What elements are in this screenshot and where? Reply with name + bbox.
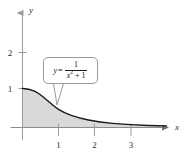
equation-callout-box: y = 1 x2 + 1 [43,57,98,84]
y-axis-label: y [28,5,33,15]
x-tick-label-1: 1 [56,140,61,150]
equation-denominator-rest: + 1 [73,71,86,80]
x-tick-label-3: 3 [129,140,134,150]
equation-equals-sign: = [58,67,63,75]
equation-fraction: 1 x2 + 1 [65,61,88,80]
y-tick-label-1: 1 [8,84,13,94]
x-tick-label-2: 2 [92,140,97,150]
callout-pointer [54,84,64,106]
function-graph-figure: 2 1 1 2 3 x y y = 1 x2 + 1 [0,0,187,156]
equation-content: y = 1 x2 + 1 [44,58,97,83]
equation-denominator: x2 + 1 [65,71,88,80]
y-tick-label-2: 2 [8,48,13,58]
x-axis-label: x [174,122,179,132]
equation-lhs: y [54,67,58,75]
equation-numerator: 1 [72,61,80,70]
